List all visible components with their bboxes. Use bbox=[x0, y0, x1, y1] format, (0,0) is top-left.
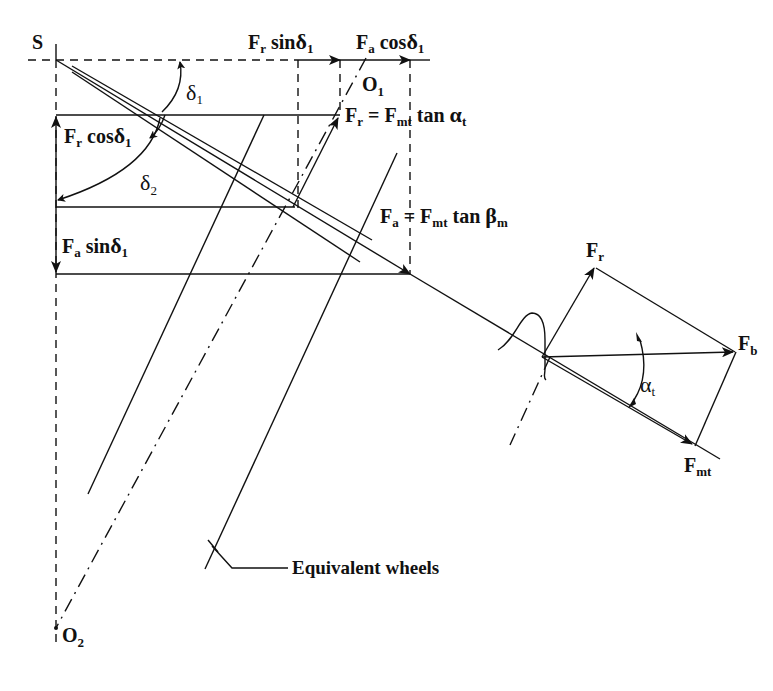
cone-line-upper bbox=[72, 66, 372, 240]
bevel-gear-force-diagram: S Fr sinδ1 Fa cosδ1 O1 O2 δ1 δ2 Fr cosδ1… bbox=[0, 0, 773, 691]
triangle-top-edge bbox=[596, 268, 735, 352]
equivalent-wheel-line-1 bbox=[88, 115, 264, 494]
label-fr-sin-delta1: Fr sinδ1 bbox=[248, 29, 313, 56]
pitch-line-extension bbox=[410, 274, 720, 459]
label-equivalent-wheels: Equivalent wheels bbox=[292, 557, 439, 578]
label-o2: O2 bbox=[62, 624, 84, 650]
label-fa-equation: Fa = Fmt tan βm bbox=[380, 203, 508, 230]
triangle-fr-arrow bbox=[542, 268, 594, 357]
label-triangle-fr: Fr bbox=[586, 239, 604, 264]
alpha-arc-head-top bbox=[636, 332, 642, 342]
label-fa-sin-delta1: Fa sinδ1 bbox=[62, 233, 128, 260]
label-fr-cos-delta1: Fr cosδ1 bbox=[64, 123, 132, 150]
tooth-centerline bbox=[510, 357, 550, 445]
label-fa-cos-delta1: Fa cosδ1 bbox=[356, 29, 424, 56]
triangle-fb-arrow bbox=[542, 352, 733, 357]
triangle-fmt-arrow bbox=[542, 357, 692, 444]
label-o1: O1 bbox=[362, 73, 384, 99]
o2-point bbox=[54, 626, 58, 630]
label-delta1: δ1 bbox=[186, 80, 203, 107]
label-fr-equation: Fr = Fmt tan αt bbox=[345, 102, 467, 129]
label-s: S bbox=[32, 31, 43, 53]
diagram-canvas: S Fr sinδ1 Fa cosδ1 O1 O2 δ1 δ2 Fr cosδ1… bbox=[0, 0, 773, 691]
label-delta2: δ2 bbox=[140, 170, 157, 198]
label-triangle-fb: Fb bbox=[738, 332, 757, 358]
tooth-profile bbox=[498, 313, 546, 380]
fr-arrow bbox=[293, 118, 338, 207]
triangle-right-edge bbox=[695, 352, 736, 446]
delta1-arc bbox=[162, 62, 181, 112]
equivalent-wheel-line-2 bbox=[205, 153, 397, 569]
label-alpha-t: αt bbox=[640, 372, 656, 399]
equivalent-wheels-leader bbox=[212, 546, 288, 568]
label-triangle-fmt: Fmt bbox=[684, 454, 712, 479]
